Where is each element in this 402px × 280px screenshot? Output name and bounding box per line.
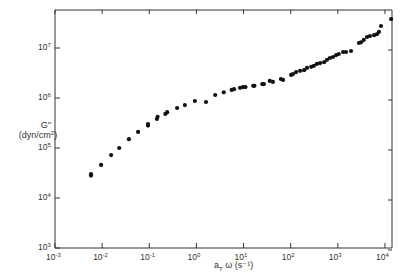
x-axis-label-omega: ω (225, 260, 232, 270)
data-point (379, 24, 383, 28)
x-tick-label: 10-3 (46, 252, 61, 262)
data-point (127, 137, 131, 141)
y-axis-label: G'' (dyn/cm2) (22, 121, 62, 141)
x-tick-label: 102 (282, 252, 295, 262)
data-point (117, 146, 121, 150)
axes-frame (55, 10, 392, 248)
data-point (281, 78, 285, 82)
y-axis-label-unit: (dyn/cm2) (14, 130, 62, 140)
x-tick-label: 103 (329, 252, 342, 262)
x-tick-label: 100 (187, 252, 200, 262)
data-point (305, 66, 309, 70)
data-point (262, 82, 266, 86)
data-point (298, 69, 302, 73)
data-point (344, 50, 348, 54)
x-axis-label: aT ω (s⁻¹) (214, 260, 253, 272)
y-tick-label: 104 (38, 192, 51, 202)
x-axis-label-unit: (s⁻¹) (235, 260, 254, 270)
data-point (222, 90, 226, 94)
data-point (204, 100, 208, 104)
data-point (318, 61, 322, 65)
y-tick-label: 105 (38, 142, 51, 152)
data-point (99, 163, 103, 167)
x-tick-label: 104 (376, 252, 389, 262)
x-tick-label: 10-2 (93, 252, 108, 262)
data-point (213, 93, 217, 97)
data-point (165, 110, 169, 114)
data-point (337, 52, 341, 56)
data-point (368, 34, 372, 38)
y-tick-label: 106 (38, 92, 51, 102)
data-point (136, 130, 140, 134)
plot-border (55, 10, 392, 248)
data-point (175, 106, 179, 110)
y-axis-label-symbol: G'' (22, 121, 62, 130)
data-point (362, 38, 366, 42)
data-point (294, 70, 298, 74)
x-axis-label-sub: T (219, 266, 223, 272)
data-point (271, 80, 275, 84)
data-point (389, 17, 393, 21)
data-point (243, 85, 247, 89)
y-tick-label: 103 (38, 242, 51, 252)
y-tick-label: 107 (38, 42, 51, 52)
axis-ticks (55, 10, 392, 250)
data-point (377, 30, 381, 34)
data-points (89, 17, 393, 178)
data-point (156, 115, 160, 119)
data-point (109, 153, 113, 157)
data-point (349, 49, 353, 53)
data-point (252, 84, 256, 88)
data-point (232, 87, 236, 91)
data-point (183, 103, 187, 107)
data-point (89, 174, 93, 178)
x-tick-label: 10-1 (140, 252, 155, 262)
data-point (146, 122, 150, 126)
data-point (193, 99, 197, 103)
